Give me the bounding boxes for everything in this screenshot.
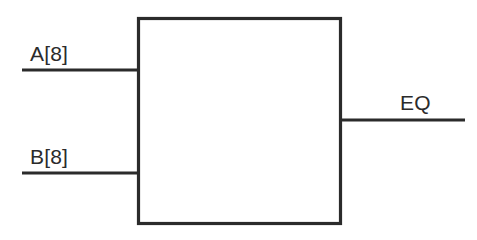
comparator-block	[139, 19, 341, 224]
diagram-vector-layer	[0, 0, 477, 240]
diagram-canvas: A[8] B[8] EQ	[0, 0, 477, 240]
output-label-eq: EQ	[400, 92, 431, 113]
input-label-a: A[8]	[30, 43, 68, 64]
input-label-b: B[8]	[30, 146, 68, 167]
